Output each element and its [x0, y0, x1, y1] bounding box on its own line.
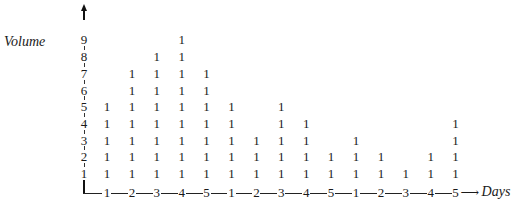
tally-mark: 1	[226, 167, 238, 181]
tally-mark: 1	[300, 150, 312, 164]
tally-mark: 1	[275, 134, 287, 148]
tally-mark: 1	[151, 50, 163, 64]
tally-mark: 1	[226, 100, 238, 114]
tally-mark: 1	[126, 150, 138, 164]
tally-mark: 1	[176, 134, 188, 148]
tally-mark: 1	[126, 167, 138, 181]
tally-mark: 1	[126, 100, 138, 114]
tally-mark: 1	[201, 150, 213, 164]
tally-mark: 1	[226, 134, 238, 148]
tally-mark: 1	[151, 67, 163, 81]
y-tick-label: 7	[78, 67, 90, 81]
tally-mark: 1	[350, 150, 362, 164]
tally-mark: 1	[101, 150, 113, 164]
tally-mark: 1	[450, 134, 462, 148]
tally-mark: 1	[151, 100, 163, 114]
tally-mark: 1	[201, 117, 213, 131]
tally-mark: 1	[300, 134, 312, 148]
tally-mark: 1	[275, 167, 287, 181]
tally-mark: 1	[250, 167, 262, 181]
x-axis-arrow-icon: ⟶	[461, 185, 480, 201]
tally-mark: 1	[375, 150, 387, 164]
y-tick-label: 1	[78, 167, 90, 181]
tally-mark: 1	[275, 100, 287, 114]
tally-mark: 1	[425, 167, 437, 181]
tally-mark: 1	[350, 167, 362, 181]
y-tick-label: 5	[78, 100, 90, 114]
tally-mark: 1	[450, 167, 462, 181]
y-tick-label: 3	[78, 134, 90, 148]
tally-mark: 1	[250, 134, 262, 148]
tally-mark: 1	[176, 33, 188, 47]
tally-mark: 1	[151, 117, 163, 131]
tally-mark: 1	[176, 84, 188, 98]
tally-mark: 1	[400, 167, 412, 181]
tally-mark: 1	[325, 150, 337, 164]
y-tick-label: 6	[78, 84, 90, 98]
y-axis-title: Volume	[4, 34, 45, 50]
tally-mark: 1	[151, 150, 163, 164]
tally-mark: 1	[350, 134, 362, 148]
tally-mark: 1	[325, 167, 337, 181]
tally-mark: 1	[176, 167, 188, 181]
y-axis-base-line	[83, 180, 85, 194]
tally-mark: 1	[201, 134, 213, 148]
tally-mark: 1	[126, 84, 138, 98]
tally-mark: 1	[101, 117, 113, 131]
x-axis-line	[83, 193, 102, 194]
tally-mark: 1	[425, 150, 437, 164]
x-axis-title: Days	[482, 184, 511, 200]
tally-mark: 1	[275, 150, 287, 164]
tally-mark: 1	[450, 150, 462, 164]
tally-mark: 1	[101, 100, 113, 114]
y-tick-label: 8	[78, 50, 90, 64]
tally-mark: 1	[176, 150, 188, 164]
tally-mark: 1	[151, 134, 163, 148]
tally-mark: 1	[201, 84, 213, 98]
tally-mark: 1	[250, 150, 262, 164]
tally-mark: 1	[300, 167, 312, 181]
tally-mark: 1	[275, 117, 287, 131]
tally-mark: 1	[375, 167, 387, 181]
y-tick-label: 9	[78, 33, 90, 47]
tally-mark: 1	[300, 117, 312, 131]
tally-mark: 1	[226, 150, 238, 164]
tally-mark: 1	[176, 100, 188, 114]
y-axis-arrow-stem	[83, 10, 85, 20]
tally-mark: 1	[201, 100, 213, 114]
tally-mark: 1	[201, 67, 213, 81]
tally-mark: 1	[226, 117, 238, 131]
tally-mark: 1	[101, 167, 113, 181]
tally-mark: 1	[101, 134, 113, 148]
tally-mark: 1	[151, 84, 163, 98]
tally-mark: 1	[126, 117, 138, 131]
tally-mark: 1	[176, 67, 188, 81]
tally-mark: 1	[126, 67, 138, 81]
tally-mark: 1	[176, 50, 188, 64]
tally-mark: 1	[176, 117, 188, 131]
y-tick-label: 4	[78, 117, 90, 131]
tally-mark: 1	[201, 167, 213, 181]
tally-mark: 1	[151, 167, 163, 181]
tally-mark: 1	[126, 134, 138, 148]
y-tick-label: 2	[78, 150, 90, 164]
tally-mark: 1	[450, 117, 462, 131]
